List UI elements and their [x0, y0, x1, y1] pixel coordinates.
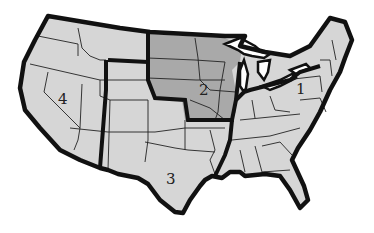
- region-label-4: 4: [58, 90, 68, 108]
- region-label-2: 2: [199, 81, 209, 99]
- region-label-1: 1: [296, 80, 306, 98]
- region-label-3: 3: [166, 170, 176, 188]
- us-region-map: 4 2 3 1: [0, 0, 374, 233]
